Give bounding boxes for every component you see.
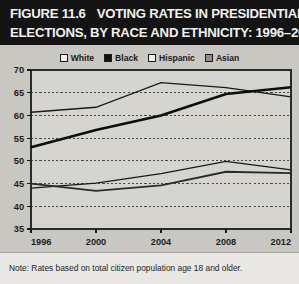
x-tick-label: 2008 <box>216 237 236 247</box>
legend-item-asian: Asian <box>205 53 239 63</box>
figure-note-text: Note: Rates based on total citizen popul… <box>9 263 242 273</box>
legend-item-white: White <box>60 53 94 63</box>
figure-title-part-1: VOTING RATES IN PRESIDENTIAL <box>97 6 299 21</box>
x-axis-ticks <box>31 229 291 233</box>
figure-title-line-2: ELECTIONS, BY RACE AND ETHNICITY: 1996–2… <box>10 23 291 42</box>
y-tick-label: 60 <box>14 111 24 121</box>
chart-plot-area: 3540455055606570 19962000200420082012 <box>0 66 299 251</box>
y-tick-label: 55 <box>14 134 24 144</box>
y-tick-label: 40 <box>14 202 24 212</box>
legend-item-black: Black <box>104 53 138 63</box>
y-tick-label: 35 <box>14 224 24 234</box>
line-chart-svg: 3540455055606570 19962000200420082012 <box>0 66 299 251</box>
chart-legend: White Black Hispanic Asian <box>0 48 299 68</box>
y-tick-label: 45 <box>14 179 24 189</box>
figure-title-line-1: FIGURE 11.6VOTING RATES IN PRESIDENTIAL <box>10 4 291 23</box>
figure-number: FIGURE 11.6 <box>10 6 86 21</box>
legend-label-white: White <box>71 53 94 63</box>
legend-swatch-hispanic-icon <box>148 54 156 62</box>
figure-container: FIGURE 11.6VOTING RATES IN PRESIDENTIAL … <box>0 0 299 284</box>
x-tick-label: 2004 <box>151 237 172 247</box>
legend-swatch-white-icon <box>60 54 68 62</box>
y-tick-label: 50 <box>14 156 24 166</box>
x-tick-label: 1996 <box>31 237 51 247</box>
legend-item-hispanic: Hispanic <box>148 53 195 63</box>
gridlines-group <box>31 70 291 229</box>
x-tick-label: 2000 <box>86 237 106 247</box>
legend-label-black: Black <box>115 53 138 63</box>
y-axis-ticks <box>27 70 31 229</box>
legend-label-hispanic: Hispanic <box>159 53 195 63</box>
figure-title-band: FIGURE 11.6VOTING RATES IN PRESIDENTIAL … <box>0 0 299 45</box>
y-tick-label: 70 <box>14 66 24 75</box>
y-axis-tick-labels: 3540455055606570 <box>14 66 24 234</box>
y-tick-label: 65 <box>14 88 24 98</box>
figure-note-band: Note: Rates based on total citizen popul… <box>0 252 299 284</box>
x-tick-label: 2012 <box>271 237 291 247</box>
legend-swatch-black-icon <box>104 54 112 62</box>
legend-swatch-asian-icon <box>205 54 213 62</box>
legend-label-asian: Asian <box>216 53 239 63</box>
x-axis-tick-labels: 19962000200420082012 <box>31 237 291 247</box>
